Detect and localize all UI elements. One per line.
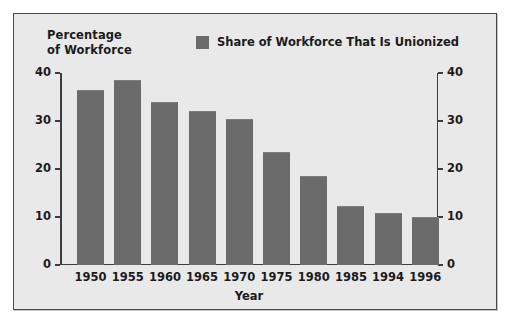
x-tick-label-1965: 1965	[183, 272, 222, 284]
x-tick-label-1960: 1960	[145, 272, 184, 284]
bar-1975	[263, 152, 290, 265]
x-tick-label-1975: 1975	[257, 272, 296, 284]
x-tick-label-1994: 1994	[369, 272, 408, 284]
y-tick-right-40	[438, 72, 443, 74]
bar-1985	[337, 206, 364, 265]
bar-1965	[189, 111, 216, 265]
y-tick-label-left-10: 10	[35, 211, 51, 223]
bar-1996	[412, 217, 439, 265]
y-tick-label-left-20: 20	[35, 163, 51, 175]
bar-1980	[300, 176, 327, 265]
x-tick-label-1950: 1950	[71, 272, 110, 284]
y-tick-right-20	[438, 168, 443, 170]
y-tick-label-left-30: 30	[35, 115, 51, 127]
y-tick-label-right-30: 30	[447, 115, 463, 127]
y-tick-label-right-0: 0	[447, 259, 455, 271]
y-tick-label-left-0: 0	[43, 259, 51, 271]
x-axis-title: Year	[60, 289, 438, 303]
bar-1955	[114, 80, 141, 265]
bar-1960	[151, 102, 178, 265]
legend-label: Share of Workforce That Is Unionized	[217, 37, 459, 49]
legend-swatch-icon	[196, 36, 209, 49]
bar-series	[60, 73, 438, 265]
y-tick-label-right-10: 10	[447, 211, 463, 223]
y-tick-label-right-20: 20	[447, 163, 463, 175]
x-tick-label-1955: 1955	[108, 272, 147, 284]
chart-figure: Percentage of Workforce Share of Workfor…	[13, 13, 497, 310]
plot-area: 010203040 010203040 19501955196019651970…	[60, 73, 438, 265]
bar-1994	[375, 213, 402, 265]
bar-1950	[77, 90, 104, 265]
chart-legend: Share of Workforce That Is Unionized	[196, 36, 459, 49]
y-tick-label-left-40: 40	[35, 67, 51, 79]
bar-1970	[226, 119, 253, 265]
y-tick-right-30	[438, 120, 443, 122]
x-tick-label-1985: 1985	[331, 272, 370, 284]
x-tick-label-1996: 1996	[406, 272, 445, 284]
x-tick-label-1970: 1970	[220, 272, 259, 284]
x-tick-label-1980: 1980	[294, 272, 333, 284]
y-axis-title: Percentage of Workforce	[47, 28, 132, 57]
y-tick-label-right-40: 40	[447, 67, 463, 79]
